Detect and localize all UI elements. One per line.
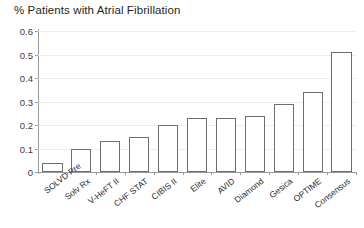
y-tick-label: 0.4	[20, 73, 33, 84]
x-tick-mark	[327, 172, 328, 175]
x-tick-mark	[211, 172, 212, 175]
x-axis-line	[38, 172, 357, 173]
y-tick-label: 0.1	[20, 143, 33, 154]
y-tick-label: 0	[28, 167, 33, 178]
bar	[129, 137, 149, 172]
chart-container: % Patients with Atrial Fibrillation 00.1…	[0, 0, 364, 228]
x-tick-mark	[125, 172, 126, 175]
y-tick-label: 0.3	[20, 96, 33, 107]
x-tick-mark	[96, 172, 97, 175]
bar	[245, 116, 265, 172]
bar	[274, 104, 294, 172]
x-tick-mark	[154, 172, 155, 175]
bar	[303, 92, 323, 172]
y-tick-label: 0.6	[20, 26, 33, 37]
x-tick-mark	[298, 172, 299, 175]
bar	[187, 118, 207, 172]
y-tick-mark	[35, 172, 38, 173]
bar	[331, 52, 351, 172]
x-tick-mark	[269, 172, 270, 175]
bar	[42, 163, 62, 172]
x-tick-label: SOLVD Pre	[42, 176, 63, 196]
bar-series	[38, 31, 356, 172]
x-axis-labels: SOLVD PreSolv RxV-HeFT IICHF STATCIBIS I…	[38, 176, 356, 228]
x-tick-mark	[356, 172, 357, 175]
bar	[216, 118, 236, 172]
x-tick-mark	[183, 172, 184, 175]
y-tick-label: 0.2	[20, 120, 33, 131]
bar	[158, 125, 178, 172]
y-tick-label: 0.5	[20, 49, 33, 60]
x-tick-mark	[240, 172, 241, 175]
plot-area: 00.10.20.30.40.50.6	[38, 31, 356, 172]
bar	[100, 141, 120, 172]
chart-title: % Patients with Atrial Fibrillation	[14, 3, 180, 17]
